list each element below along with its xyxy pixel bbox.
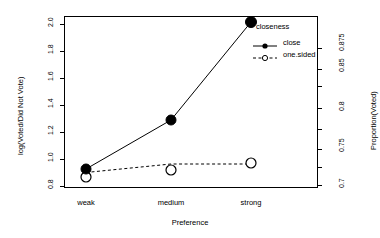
legend-key-close-icon — [252, 37, 278, 47]
legend-title: closeness — [256, 22, 326, 31]
legend-label-one-sided: one.sided — [283, 50, 316, 59]
legend-key-one-sided-icon — [252, 49, 278, 59]
y-axis-ticks-right — [318, 49, 322, 186]
legend-item-close[interactable]: close — [252, 37, 326, 47]
legend-label-close: close — [283, 38, 301, 47]
series-one-sided — [81, 158, 256, 182]
legend: closeness close one.sided — [252, 22, 326, 61]
data-point-close-medium — [166, 115, 176, 125]
series-close-line — [86, 22, 251, 169]
data-point-one-sided-medium — [166, 165, 176, 175]
legend-item-one-sided[interactable]: one.sided — [252, 49, 326, 59]
data-point-one-sided-strong — [246, 158, 256, 168]
y-axis-ticks-left — [60, 25, 64, 187]
series-close — [81, 17, 257, 175]
effects-plot: log(Voted/Did Not Vote) Proportion(Voted… — [0, 0, 380, 238]
data-point-close-weak — [81, 164, 91, 174]
